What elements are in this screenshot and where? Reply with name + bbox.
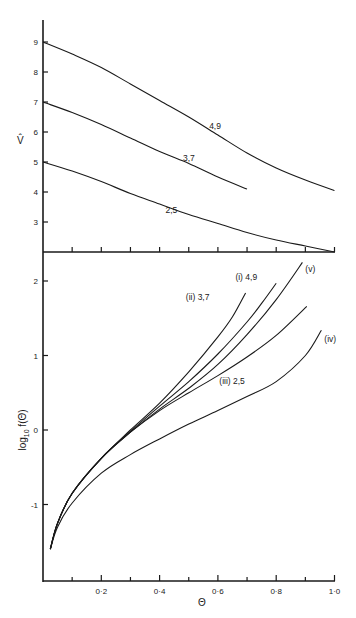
curve-3-7 bbox=[43, 102, 247, 189]
y-tick-label: 9 bbox=[34, 38, 39, 47]
y-tick-label: 2 bbox=[34, 277, 39, 286]
bottom-x-ticks: 0·20·40·60·81·0 bbox=[72, 575, 341, 596]
bottom-y-axis-label: log10 f(Θ) bbox=[17, 409, 30, 450]
curve-2-5 bbox=[43, 162, 335, 252]
curve-label: 4,9 bbox=[209, 121, 221, 131]
x-tick-label: 0·4 bbox=[154, 587, 166, 596]
figure: 3456789 4,93,72,5 V̂ -1012 0·20·40·60·81… bbox=[0, 0, 356, 618]
top-curves bbox=[43, 42, 335, 252]
top-curve-labels: 4,93,72,5 bbox=[165, 121, 221, 215]
curve-label: 2,5 bbox=[165, 205, 177, 215]
y-tick-label: 1 bbox=[34, 352, 39, 361]
curve-label: (i) 4,9 bbox=[235, 272, 257, 282]
curve-label: 3,7 bbox=[183, 153, 195, 163]
curve-label: (v) bbox=[305, 264, 315, 274]
curve--iv- bbox=[50, 330, 321, 549]
x-tick-label: 1·0 bbox=[329, 587, 341, 596]
x-tick-label: 0·6 bbox=[212, 587, 224, 596]
y-tick-label: 5 bbox=[34, 158, 39, 167]
y-tick-label: -1 bbox=[31, 501, 39, 510]
curve-label: (iii) 2,5 bbox=[219, 376, 245, 386]
bottom-curve-labels: (i) 4,9(ii) 3,7(iii) 2,5(iv)(v) bbox=[186, 264, 336, 386]
bottom-curves bbox=[50, 262, 321, 549]
curve--ii-3-7 bbox=[50, 293, 245, 549]
y-tick-label: 4 bbox=[34, 188, 39, 197]
bottom-panel-log-f: -1012 0·20·40·60·81·0 (i) 4,9(ii) 3,7(ii… bbox=[17, 252, 341, 608]
y-tick-label: 6 bbox=[34, 128, 39, 137]
curve-4-9 bbox=[43, 42, 335, 191]
x-tick-label: 0·8 bbox=[270, 587, 282, 596]
bottom-x-axis-label: Θ bbox=[198, 597, 206, 608]
bottom-y-ticks: -1012 bbox=[31, 277, 48, 510]
y-tick-label: 0 bbox=[34, 426, 39, 435]
curve-label: (iv) bbox=[324, 334, 336, 344]
curve--i-4-9 bbox=[50, 283, 276, 549]
y-tick-label: 3 bbox=[34, 218, 39, 227]
curve--v- bbox=[50, 262, 302, 549]
x-tick-label: 0·2 bbox=[96, 587, 108, 596]
top-panel-v-hat: 3456789 4,93,72,5 V̂ bbox=[17, 20, 335, 252]
top-y-axis-label: V̂ bbox=[17, 133, 24, 146]
curve--iii-2-5 bbox=[50, 306, 307, 549]
y-tick-label: 7 bbox=[34, 98, 39, 107]
top-y-ticks: 3456789 bbox=[34, 38, 48, 227]
y-tick-label: 8 bbox=[34, 68, 39, 77]
curve-label: (ii) 3,7 bbox=[186, 292, 210, 302]
